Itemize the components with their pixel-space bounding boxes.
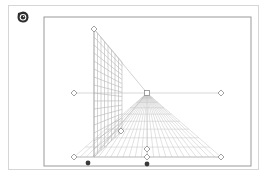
left-dot-handle[interactable]: [86, 161, 91, 166]
center-dot-handle[interactable]: [145, 162, 150, 167]
vanishing-point-handle[interactable]: [145, 91, 150, 96]
perspective-canvas[interactable]: [0, 0, 266, 176]
